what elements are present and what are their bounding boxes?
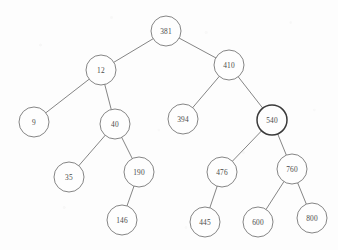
tree-edge-540-to-476 bbox=[232, 131, 261, 161]
tree-node-476: 476 bbox=[207, 157, 237, 187]
tree-edge-760-to-600 bbox=[266, 182, 284, 210]
node-label-394: 394 bbox=[177, 115, 189, 124]
node-label-600: 600 bbox=[252, 218, 264, 227]
tree-edge-410-to-540 bbox=[238, 77, 263, 108]
tree-edge-476-to-445 bbox=[210, 186, 217, 208]
node-label-40: 40 bbox=[111, 120, 119, 129]
tree-edge-760-to-800 bbox=[298, 183, 307, 204]
tree-edge-381-to-12 bbox=[114, 39, 153, 63]
node-label-445: 445 bbox=[199, 218, 211, 227]
tree-node-190: 190 bbox=[124, 157, 154, 187]
tree-node-394: 394 bbox=[168, 104, 198, 134]
tree-node-12: 12 bbox=[86, 55, 116, 85]
node-label-12: 12 bbox=[97, 66, 105, 75]
node-label-381: 381 bbox=[160, 27, 172, 36]
node-layer: 3811241094039454035190476760146445600800 bbox=[19, 16, 327, 237]
node-label-190: 190 bbox=[133, 168, 145, 177]
tree-node-40: 40 bbox=[100, 109, 130, 139]
tree-node-35: 35 bbox=[54, 162, 84, 192]
node-label-9: 9 bbox=[32, 118, 36, 127]
node-label-146: 146 bbox=[116, 216, 128, 225]
tree-node-9: 9 bbox=[19, 107, 49, 137]
tree-node-146: 146 bbox=[107, 205, 137, 235]
tree-edge-40-to-190 bbox=[122, 137, 133, 158]
node-label-760: 760 bbox=[286, 165, 298, 174]
node-label-476: 476 bbox=[216, 168, 228, 177]
node-label-800: 800 bbox=[306, 214, 318, 223]
tree-node-410: 410 bbox=[214, 50, 244, 80]
tree-edge-12-to-40 bbox=[105, 85, 111, 110]
tree-edge-381-to-410 bbox=[179, 38, 216, 58]
tree-node-540: 540 bbox=[257, 105, 287, 135]
tree-node-760: 760 bbox=[277, 154, 307, 184]
node-label-540: 540 bbox=[266, 116, 278, 125]
tree-node-800: 800 bbox=[297, 203, 327, 233]
binary-tree-figure: 3811241094039454035190476760146445600800 bbox=[0, 0, 338, 250]
tree-node-445: 445 bbox=[190, 207, 220, 237]
node-label-410: 410 bbox=[223, 61, 235, 70]
tree-diagram-canvas: 3811241094039454035190476760146445600800 bbox=[0, 0, 338, 250]
tree-edge-12-to-9 bbox=[46, 79, 89, 113]
tree-edge-410-to-394 bbox=[193, 76, 220, 107]
tree-edge-190-to-146 bbox=[127, 186, 134, 206]
tree-edge-40-to-35 bbox=[79, 135, 105, 165]
node-label-35: 35 bbox=[65, 173, 73, 182]
tree-node-600: 600 bbox=[243, 207, 273, 237]
tree-edge-540-to-760 bbox=[278, 134, 287, 155]
tree-node-381: 381 bbox=[151, 16, 181, 46]
